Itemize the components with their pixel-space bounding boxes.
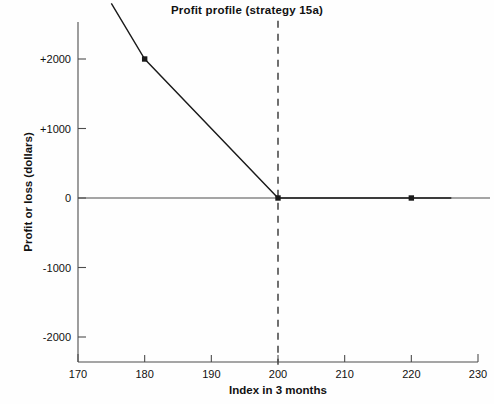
x-tick-label: 170 [69,368,87,380]
chart-figure: Profit profile (strategy 15a) Profit or … [0,0,494,404]
x-tick-label: 180 [135,368,153,380]
x-tick-label: 230 [469,368,487,380]
y-tick-label: +1000 [40,123,71,135]
data-point-marker [142,56,147,61]
plot-area: +2000+10000-1000-2000 170180190200210220… [0,0,494,404]
data-point-marker [275,195,280,200]
x-tick-label: 210 [335,368,353,380]
y-tick-label: -1000 [43,262,71,274]
data-point-marker [409,195,414,200]
series-polyline [111,3,451,198]
x-axis-ticks: 170180190200210220230 [69,354,487,380]
data-series-line [111,3,451,198]
y-tick-label: 0 [65,192,71,204]
y-tick-label: -2000 [43,331,71,343]
y-tick-label: +2000 [40,53,71,65]
x-tick-label: 190 [202,368,220,380]
x-tick-label: 220 [402,368,420,380]
x-tick-label: 200 [269,368,287,380]
